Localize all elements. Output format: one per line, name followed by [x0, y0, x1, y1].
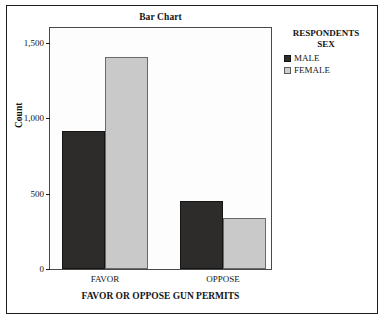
y-axis-tick: 500 [31, 189, 51, 199]
legend-title-line1: RESPONDENTS [293, 28, 360, 38]
y-axis-title: Count [14, 103, 24, 128]
y-axis-tick: 0 [40, 264, 51, 274]
legend-item-female: FEMALE [284, 64, 376, 76]
x-axis-title: FAVOR OR OPPOSE GUN PERMITS [49, 291, 272, 301]
x-category-label-favor: FAVOR [62, 274, 148, 284]
legend-title: RESPONDENTS SEX [276, 28, 376, 50]
female-swatch-icon [284, 67, 291, 74]
bar-oppose-female [223, 218, 266, 269]
bar-chart-screenshot: Bar Chart Count 05001,0001,500 FAVOROPPO… [0, 0, 385, 321]
legend-item-male: MALE [284, 52, 376, 64]
plot-inner: 05001,0001,500 [50, 28, 271, 269]
bar-oppose-male [180, 201, 223, 269]
bar-favor-female [105, 57, 148, 269]
bar-favor-male [62, 131, 105, 269]
chart-title: Bar Chart [49, 12, 272, 22]
legend-item-label: MALE [294, 52, 320, 64]
legend-items: MALEFEMALE [276, 52, 376, 76]
plot-area: 05001,0001,500 [49, 27, 272, 270]
male-swatch-icon [284, 55, 291, 62]
legend: RESPONDENTS SEX MALEFEMALE [276, 28, 376, 76]
legend-title-line2: SEX [276, 39, 376, 50]
x-category-label-oppose: OPPOSE [180, 274, 266, 284]
legend-item-label: FEMALE [294, 64, 330, 76]
y-axis-tick: 1,500 [24, 38, 50, 48]
y-axis-tick: 1,000 [24, 113, 50, 123]
